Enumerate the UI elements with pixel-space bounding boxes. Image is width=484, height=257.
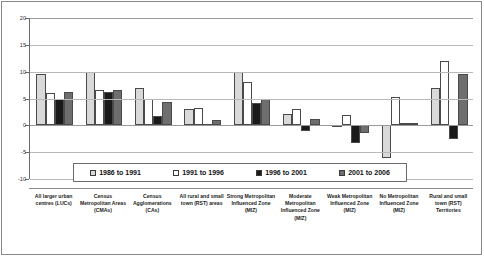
bar xyxy=(95,90,104,125)
bar xyxy=(440,61,449,125)
bar xyxy=(64,92,73,126)
y-axis-tick-label: -5 xyxy=(21,149,26,155)
legend-swatch-icon xyxy=(256,170,262,176)
bar xyxy=(458,74,467,125)
bar xyxy=(292,109,301,125)
legend-label: 2001 to 2006 xyxy=(348,169,390,176)
bar xyxy=(162,102,171,125)
x-axis-labels: All larger urban centres (LUCs)Census Me… xyxy=(29,193,473,255)
x-axis-label: All larger urban centres (LUCs) xyxy=(29,193,78,207)
gridline xyxy=(30,152,473,153)
gridline xyxy=(30,125,473,126)
y-axis-tick-label: 20 xyxy=(20,15,26,21)
bar-chart: 20151050-5-10 1986 to 1991 1991 to 1996 … xyxy=(0,0,484,257)
gridline xyxy=(30,72,473,73)
x-axis-label: All rural and small town (RST) areas xyxy=(177,193,226,207)
bar xyxy=(261,99,270,126)
bar xyxy=(449,125,458,138)
legend-swatch-icon xyxy=(339,170,345,176)
x-axis-label: Census Agglomerations (CAs) xyxy=(128,193,177,215)
legend-label: 1991 to 1996 xyxy=(182,169,224,176)
bar xyxy=(36,74,45,125)
legend-item: 1986 to 1991 xyxy=(90,169,141,176)
x-axis-label: Weak Metropolitan Influenced Zone (MIZ) xyxy=(325,193,374,215)
bar xyxy=(431,88,440,126)
y-axis-tick-label: 0 xyxy=(23,122,26,128)
bar xyxy=(113,90,122,125)
bar xyxy=(391,97,400,125)
legend-item: 1991 to 1996 xyxy=(173,169,224,176)
y-axis-tick-label: 10 xyxy=(20,69,26,75)
y-axis-tick-label: -10 xyxy=(18,176,26,182)
y-axis-tick-label: 15 xyxy=(20,42,26,48)
bar xyxy=(104,92,113,126)
bar xyxy=(135,88,144,126)
gridline xyxy=(30,18,473,19)
y-axis: 20151050-5-10 xyxy=(0,0,29,257)
legend-item: 1996 to 2001 xyxy=(256,169,307,176)
plot-area xyxy=(29,18,473,179)
bar xyxy=(252,103,261,126)
legend-label: 1996 to 2001 xyxy=(265,169,307,176)
bar xyxy=(243,82,252,125)
x-axis-separator xyxy=(29,188,473,189)
bar xyxy=(283,114,292,126)
bar xyxy=(342,115,351,126)
legend: 1986 to 1991 1991 to 1996 1996 to 2001 2… xyxy=(73,163,407,182)
bar xyxy=(360,125,369,133)
legend-swatch-icon xyxy=(173,170,179,176)
x-axis-label: Census Metropolitan Areas (CMAs) xyxy=(78,193,127,215)
bar xyxy=(184,109,193,125)
gridline xyxy=(30,45,473,46)
x-axis-label: Moderate Metropolitan Influenced Zone (M… xyxy=(276,193,325,222)
legend-item: 2001 to 2006 xyxy=(339,169,390,176)
legend-label: 1986 to 1991 xyxy=(99,169,141,176)
bar xyxy=(194,108,203,126)
bar xyxy=(55,99,64,126)
bar xyxy=(153,116,162,126)
x-axis-label: No Metropolitan Influenced Zone (MIZ) xyxy=(374,193,423,215)
x-axis-label: Rural and small town (RST) Territories xyxy=(424,193,473,215)
legend-swatch-icon xyxy=(90,170,96,176)
gridline xyxy=(30,99,473,100)
bar xyxy=(351,125,360,143)
x-axis-label: Strong Metropolitan Influenced Zone (MIZ… xyxy=(226,193,275,215)
y-axis-tick-label: 5 xyxy=(23,96,26,102)
bar xyxy=(144,99,153,126)
